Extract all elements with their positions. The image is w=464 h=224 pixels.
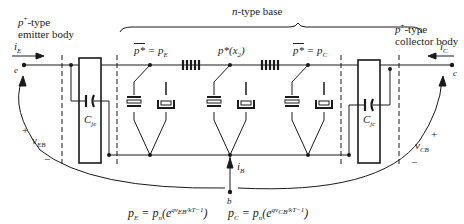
collector-region-label: p+-type collector body [395, 20, 458, 47]
capacitor-label-cje: Cje [84, 113, 96, 130]
node-label-pc: p* = pC [293, 44, 327, 61]
veb-plus: + [22, 124, 28, 136]
veb-minus: − [44, 153, 50, 165]
capacitor-label-cjc: Cjc [363, 113, 375, 130]
vcb-minus: − [411, 156, 417, 168]
base-brace [120, 23, 422, 33]
storage-cell-2 [207, 65, 254, 155]
current-label-ie: iE [14, 40, 21, 57]
voltage-label-vcb: vCB [415, 139, 429, 156]
terminal-label-e: e [14, 64, 18, 76]
vcb-arc [238, 80, 442, 189]
storage-cell-1 [127, 65, 174, 155]
terminal-label-c: c [453, 67, 457, 79]
voltage-label-veb: vEB [32, 134, 45, 151]
emitter-region-label: p+-type emitter body [18, 13, 74, 40]
base-terminal [228, 190, 232, 194]
current-label-ib: iB [237, 160, 244, 177]
storage-cell-3 [285, 65, 332, 155]
equation-pe: pE = pn(eqvEB/kT−1) [128, 204, 208, 224]
cjc-box [358, 60, 380, 163]
vcb-plus: + [431, 128, 437, 140]
veb-arc [19, 80, 225, 188]
base-region-label: n-type base [232, 5, 282, 17]
current-label-ic: iC [440, 40, 448, 57]
equation-pc: pC = pn(eqvCB/kT−1) [228, 204, 308, 224]
cje-box [79, 58, 101, 163]
node-label-pe: p* = pE [134, 44, 168, 61]
node-label-px2: p*(x2) [218, 44, 245, 61]
emitter-terminal [22, 63, 26, 67]
